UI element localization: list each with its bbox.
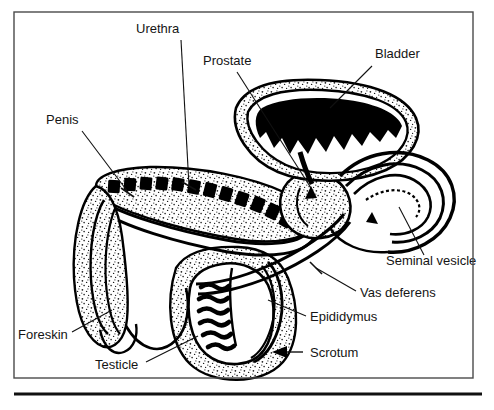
prostate-body [280, 173, 350, 238]
label-seminal-vesicle: Seminal vesicle [386, 253, 476, 268]
label-foreskin: Foreskin [18, 327, 68, 342]
diagram-canvas: Urethra Penis Prostate Bladder Foreskin … [0, 0, 494, 410]
label-penis: Penis [46, 112, 79, 127]
label-prostate: Prostate [203, 53, 251, 68]
label-epididymus: Epididymus [310, 309, 378, 324]
label-urethra: Urethra [136, 21, 180, 36]
label-scrotum: Scrotum [310, 345, 358, 360]
label-testicle: Testicle [95, 357, 138, 372]
label-bladder: Bladder [375, 46, 420, 61]
anatomy-figure: Urethra Penis Prostate Bladder Foreskin … [0, 0, 494, 410]
label-vas-deferens: Vas deferens [360, 285, 436, 300]
